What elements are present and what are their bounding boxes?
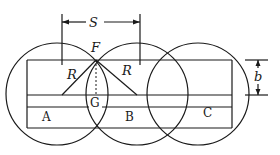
arrow-down-icon [256, 89, 261, 95]
label-g: G [90, 96, 100, 110]
label-b-width: b [254, 69, 262, 84]
label-r-left: R [66, 67, 77, 82]
circle-b [86, 43, 188, 145]
label-c: C [203, 106, 212, 120]
arrow-right-icon [133, 20, 140, 25]
label-a: A [41, 110, 51, 124]
circle-a [6, 43, 108, 145]
label-r-right: R [121, 63, 132, 78]
overlapping-circles-diagram: S F R R G A B C b [0, 0, 280, 155]
label-f: F [90, 40, 101, 55]
label-b: B [125, 110, 134, 124]
arrow-up-icon [256, 60, 261, 66]
circle-c [147, 43, 249, 145]
label-s: S [89, 15, 98, 30]
arrow-left-icon [62, 20, 69, 25]
